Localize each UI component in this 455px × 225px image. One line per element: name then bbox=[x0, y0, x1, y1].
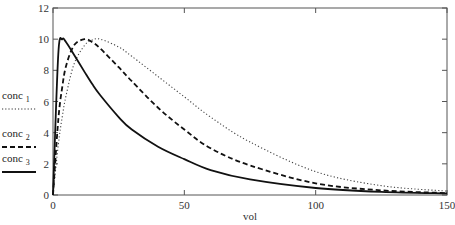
legend-label: conc bbox=[2, 89, 23, 101]
legend-label: conc bbox=[2, 152, 23, 164]
legend-label: conc bbox=[2, 127, 23, 139]
series-lines bbox=[53, 38, 447, 195]
x-axis-label: vol bbox=[243, 210, 257, 222]
y-tick-label: 10 bbox=[38, 33, 50, 45]
line-chart: 024681012050100150 vol bbox=[0, 0, 455, 225]
legend-item-conc2: conc2 bbox=[2, 128, 38, 150]
x-tick-label: 50 bbox=[179, 199, 191, 211]
y-tick-label: 8 bbox=[44, 64, 50, 76]
y-tick-label: 12 bbox=[38, 2, 49, 14]
y-tick-label: 4 bbox=[44, 127, 50, 139]
plot-frame bbox=[53, 8, 447, 195]
dotted-line-swatch-icon bbox=[2, 106, 38, 112]
dashed-line-swatch-icon bbox=[2, 144, 38, 150]
x-tick-label: 150 bbox=[439, 199, 455, 211]
series-line-1 bbox=[53, 39, 447, 195]
y-tick-label: 2 bbox=[44, 158, 50, 170]
y-tick-label: 0 bbox=[44, 189, 50, 201]
y-tick-label: 6 bbox=[44, 96, 50, 108]
solid-line-swatch-icon bbox=[2, 169, 38, 175]
x-tick-label: 0 bbox=[50, 199, 56, 211]
legend-item-conc1: conc1 bbox=[2, 90, 38, 112]
legend-item-conc3: conc3 bbox=[2, 153, 38, 175]
series-line-2 bbox=[53, 39, 447, 195]
x-tick-label: 100 bbox=[307, 199, 324, 211]
